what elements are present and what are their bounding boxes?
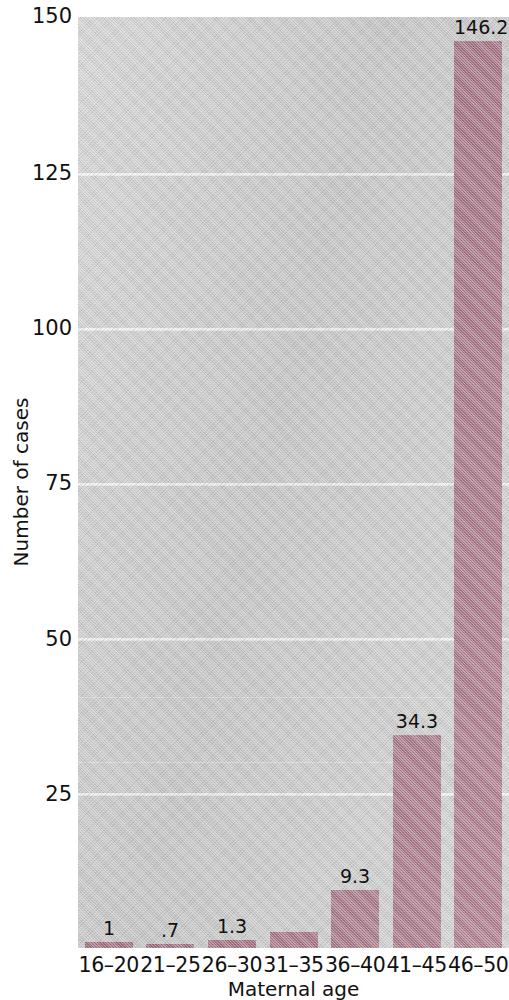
plot-area [78, 17, 509, 948]
x-tick-label: 26–30 [201, 952, 263, 980]
bar-value-label: 9.3 [331, 867, 379, 886]
bar-21-25 [146, 944, 194, 948]
y-tick-label: 75 [0, 473, 72, 494]
gridline-75 [78, 483, 509, 485]
gridline-50 [78, 638, 509, 640]
x-tick-label: 41–45 [386, 952, 448, 980]
bar-46-50 [454, 41, 502, 948]
bar-36-40 [331, 890, 379, 948]
y-tick-label: 25 [0, 784, 72, 805]
bar-value-label: 146.2 [454, 18, 502, 37]
bar-value-label: 1 [85, 919, 133, 938]
x-axis-tick-labels: 16–20 21–25 26–30 31–35 36–40 41–45 46–5… [78, 952, 509, 980]
gridline-minor [78, 762, 509, 763]
y-tick-label: 125 [0, 163, 72, 184]
bar-16-20 [85, 942, 133, 948]
bar-value-label: .7 [146, 921, 194, 940]
gridline-minor [78, 697, 509, 698]
y-tick-label: 100 [0, 318, 72, 339]
x-tick-label: 46–50 [447, 952, 509, 980]
bar-value-label: 1.3 [208, 917, 256, 936]
y-axis-tick-labels: 150 125 100 75 50 25 [0, 0, 72, 1000]
gridline-25 [78, 793, 509, 795]
bar-chart: Number of cases 150 125 100 75 50 25 1 .… [0, 0, 509, 1000]
bar-value-label: 34.3 [393, 712, 441, 731]
gridline-100 [78, 328, 509, 330]
x-axis-title: Maternal age [78, 978, 509, 1000]
bar-31-35 [270, 932, 318, 948]
y-tick-label: 50 [0, 629, 72, 650]
x-tick-label: 36–40 [324, 952, 386, 980]
x-tick-label: 31–35 [263, 952, 325, 980]
x-tick-label: 16–20 [78, 952, 140, 980]
bar-41-45 [393, 735, 441, 948]
x-tick-label: 21–25 [140, 952, 202, 980]
y-tick-label: 150 [0, 6, 72, 27]
gridline-125 [78, 173, 509, 175]
bar-26-30 [208, 940, 256, 948]
